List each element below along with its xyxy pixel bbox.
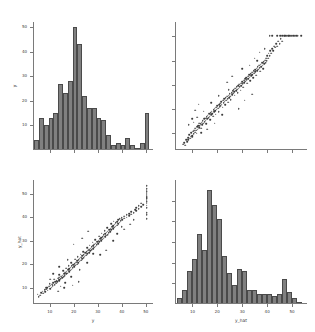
scatter-point — [276, 35, 278, 37]
scatter-point — [146, 188, 148, 190]
scatter-point — [105, 249, 107, 251]
scatter-point — [188, 139, 190, 141]
y-tick — [30, 264, 33, 265]
scatter-point — [131, 214, 133, 216]
scatter-point — [85, 254, 87, 256]
scatter-point — [71, 269, 73, 271]
scatter-point — [193, 133, 195, 135]
scatter-point — [73, 244, 75, 246]
scatter-point — [54, 284, 56, 286]
scatter-point — [113, 240, 115, 242]
scatter-point — [146, 202, 148, 204]
x-tick-label: 10 — [190, 310, 195, 315]
scatter-point — [200, 132, 202, 134]
scatter-point — [255, 71, 257, 73]
y-tick-label: 20 — [22, 262, 27, 267]
scatter-point — [60, 286, 62, 288]
scatter-point — [198, 103, 200, 105]
scatter-point — [203, 111, 205, 113]
scatter-point — [217, 107, 219, 109]
scatter-point — [146, 200, 148, 202]
axis-spine-left — [33, 180, 34, 304]
y-tick-label: 50 — [22, 192, 27, 197]
scatter-point — [94, 239, 96, 241]
scatter-point — [184, 144, 186, 146]
scatter-point — [90, 248, 92, 250]
scatter-point — [68, 265, 70, 267]
scatter-point — [138, 208, 140, 210]
x-tick — [267, 304, 268, 307]
scatter-point — [110, 223, 112, 225]
scatter-point — [262, 68, 264, 70]
scatter-point — [270, 50, 272, 52]
x-tick-label: 50 — [143, 310, 148, 315]
scatter-point — [237, 92, 239, 94]
axis-spine-bottom — [33, 303, 153, 304]
scatter-point — [126, 216, 128, 218]
panel-bottom-right-histogram: y_hat 1020304050 — [175, 180, 307, 304]
scatter-point — [79, 269, 81, 271]
scatter-point — [92, 248, 94, 250]
scatter-point — [249, 80, 251, 82]
scatter-point — [49, 288, 51, 290]
scatter-point — [230, 99, 232, 101]
scatter-point — [104, 233, 106, 235]
scatter-point — [215, 113, 217, 115]
panel-bottom-left-scatter: y y_hat 10203040501020304050 — [33, 180, 153, 304]
scatter-point — [189, 138, 191, 140]
scatter-point — [218, 95, 220, 97]
scatter-point — [47, 287, 49, 289]
scatter-point — [100, 240, 102, 242]
panel-top-right-scatter — [175, 22, 307, 150]
scatter-point — [86, 262, 88, 264]
x-tick-label: 20 — [71, 310, 76, 315]
scatter-point — [98, 235, 100, 237]
scatter-point — [86, 247, 88, 249]
scatter-point — [129, 224, 131, 226]
scatter-point — [222, 107, 224, 109]
scatter-point — [123, 216, 125, 218]
scatter-point — [267, 57, 269, 59]
x-tick — [192, 304, 193, 307]
scatter-point — [53, 273, 55, 275]
scatter-point — [54, 279, 56, 281]
scatter-point — [281, 41, 283, 43]
scatter-point — [89, 244, 91, 246]
scatter-point — [138, 205, 140, 207]
y-tick-label: 30 — [22, 239, 27, 244]
x-axis-label: y — [92, 318, 95, 323]
x-tick — [292, 150, 293, 153]
x-tick-label: 40 — [265, 310, 270, 315]
axis-spine-bottom — [33, 149, 153, 150]
scatter-point — [113, 220, 115, 222]
y-tick — [172, 36, 175, 37]
scatter-point — [229, 95, 231, 97]
scatter-point — [206, 123, 208, 125]
scatter-point — [44, 291, 46, 293]
x-tick — [98, 150, 99, 153]
scatter-point — [212, 113, 214, 115]
scatter-point — [72, 284, 74, 286]
scatter-point — [251, 94, 253, 96]
pairplot-figure: y 1020304050 y y_hat 1020304050102030405… — [0, 0, 315, 332]
scatter-point — [200, 128, 202, 130]
scatter-point — [249, 65, 251, 67]
x-tick-label: 30 — [240, 310, 245, 315]
scatter-point — [271, 48, 273, 50]
x-tick — [122, 304, 123, 307]
scatter-point — [184, 142, 186, 144]
scatter-point — [116, 224, 118, 226]
y-tick — [30, 125, 33, 126]
scatter-point — [107, 234, 109, 236]
scatter-point — [64, 275, 66, 277]
scatter-point — [140, 206, 142, 208]
scatter-point — [252, 77, 254, 79]
scatter-point — [249, 77, 251, 79]
scatter-point — [76, 263, 78, 265]
scatter-point — [49, 279, 51, 281]
scatter-point — [92, 242, 94, 244]
scatter-point — [146, 212, 148, 214]
scatter-point — [70, 262, 72, 264]
scatter-point — [252, 74, 254, 76]
scatter-point — [255, 75, 257, 77]
